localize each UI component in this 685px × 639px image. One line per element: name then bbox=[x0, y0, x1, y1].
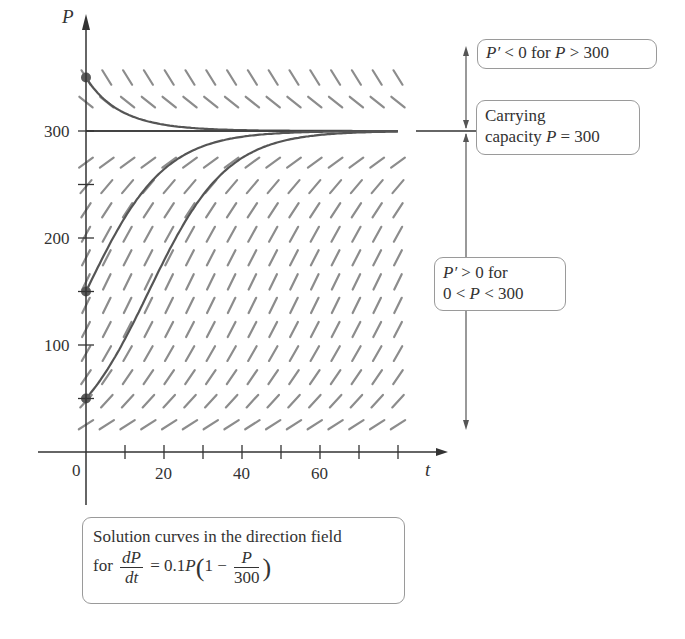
frac-denominator: dt bbox=[120, 568, 143, 586]
callout-increasing-rest: > 0 for bbox=[461, 263, 507, 282]
slope-segment bbox=[351, 180, 362, 193]
slope-segment bbox=[393, 370, 403, 384]
callout-increasing-lhs: P′ bbox=[443, 263, 457, 282]
slope-segment bbox=[123, 227, 131, 242]
x-tick-0: 0 bbox=[72, 462, 81, 479]
slope-segment bbox=[394, 250, 402, 265]
slope-segment bbox=[373, 298, 380, 313]
slope-segment bbox=[122, 180, 133, 193]
slope-segment bbox=[183, 97, 196, 108]
slope-segment bbox=[311, 298, 318, 313]
slope-segment bbox=[290, 346, 298, 361]
slope-segment bbox=[249, 298, 256, 313]
solution-curve bbox=[86, 132, 398, 399]
x-axis-arrowhead bbox=[436, 448, 448, 456]
callout-decreasing-rel: < 0 for bbox=[504, 43, 550, 62]
slope-segment bbox=[144, 346, 152, 361]
slope-segment bbox=[289, 203, 298, 217]
slope-segment bbox=[373, 346, 381, 361]
arrow-up-head bbox=[463, 46, 469, 56]
slope-segment bbox=[165, 274, 172, 289]
slope-segment bbox=[204, 158, 218, 168]
slope-segment bbox=[392, 395, 403, 408]
slope-segment bbox=[163, 395, 174, 408]
slope-segment bbox=[103, 250, 111, 265]
callout-capacity-word: capacity bbox=[485, 127, 542, 146]
slope-segment bbox=[332, 250, 340, 265]
slope-segment bbox=[227, 227, 235, 242]
callout-increasing-var: P bbox=[470, 284, 480, 303]
slope-segment bbox=[311, 274, 318, 289]
slope-segment bbox=[353, 322, 361, 337]
slope-segment bbox=[249, 322, 257, 337]
slope-segment bbox=[123, 370, 133, 384]
slope-segment bbox=[268, 180, 279, 193]
slope-segment bbox=[103, 227, 111, 242]
slope-segment bbox=[353, 298, 360, 313]
slope-segment bbox=[352, 70, 361, 84]
slope-segment bbox=[144, 227, 152, 242]
slope-segment bbox=[269, 274, 276, 289]
slope-segment bbox=[120, 420, 134, 429]
callout-decreasing-lhs: P′ bbox=[486, 43, 500, 62]
slope-segment bbox=[310, 70, 319, 84]
slope-segment bbox=[289, 70, 298, 84]
slope-segment bbox=[225, 97, 238, 108]
callout-increasing-line1: P′ > 0 for bbox=[443, 262, 557, 283]
slope-segment bbox=[124, 298, 131, 313]
figure-caption: Solution curves in the direction field f… bbox=[82, 517, 405, 604]
slope-segment bbox=[103, 274, 110, 289]
slope-segment bbox=[370, 420, 384, 429]
axes bbox=[38, 14, 448, 505]
slope-segment bbox=[186, 250, 194, 265]
slope-segment bbox=[288, 395, 299, 408]
slope-segment bbox=[330, 180, 341, 193]
slope-segment bbox=[247, 180, 258, 193]
slope-segment bbox=[186, 227, 194, 242]
slope-segment bbox=[329, 97, 342, 108]
slope-segment bbox=[287, 420, 301, 429]
slope-segment bbox=[269, 70, 278, 84]
slope-segment bbox=[121, 158, 135, 168]
slope-segment bbox=[309, 180, 320, 193]
slope-segment bbox=[164, 180, 175, 193]
slope-segment bbox=[226, 395, 237, 408]
slope-segment bbox=[373, 250, 381, 265]
slope-segment bbox=[353, 250, 361, 265]
slope-segment bbox=[311, 227, 319, 242]
slope-segment bbox=[165, 70, 174, 84]
slope-segment bbox=[352, 370, 362, 384]
slope-segment bbox=[349, 420, 363, 429]
slope-segment bbox=[309, 395, 320, 408]
slope-segment bbox=[207, 227, 215, 242]
y-tick-100: 100 bbox=[44, 337, 70, 354]
slope-segment bbox=[370, 158, 384, 168]
slope-segment bbox=[308, 97, 321, 108]
slope-segment bbox=[206, 70, 215, 84]
slope-segment bbox=[394, 298, 401, 313]
callout-increasing-line2: 0 < P < 300 bbox=[443, 283, 557, 304]
slope-segment bbox=[372, 370, 382, 384]
callout-increasing-b: < 300 bbox=[484, 284, 523, 303]
slope-segment bbox=[353, 274, 360, 289]
slope-segment bbox=[351, 395, 362, 408]
slope-segment bbox=[352, 203, 361, 217]
slope-segment bbox=[394, 322, 402, 337]
slope-segment bbox=[311, 322, 319, 337]
annotation-arrows bbox=[416, 46, 476, 430]
slope-segment bbox=[269, 322, 277, 337]
callout-increasing-a: 0 < bbox=[443, 284, 465, 303]
caption-one-minus: 1 − bbox=[204, 556, 226, 575]
x-tick-40: 40 bbox=[233, 465, 250, 482]
slope-segment bbox=[249, 274, 256, 289]
slope-segment bbox=[350, 158, 364, 168]
slope-segment bbox=[371, 97, 384, 108]
slope-segment bbox=[207, 346, 215, 361]
slope-segment bbox=[373, 322, 381, 337]
slope-segment bbox=[290, 322, 298, 337]
slope-segment bbox=[331, 203, 340, 217]
slope-segment bbox=[391, 420, 405, 429]
slope-segment bbox=[267, 395, 278, 408]
slope-segment bbox=[163, 97, 176, 108]
slope-segment bbox=[266, 420, 280, 429]
